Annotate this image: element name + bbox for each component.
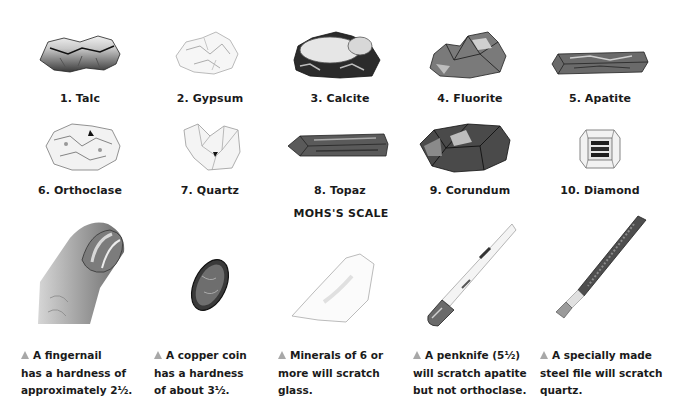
mineral-apatite: 5. Apatite [540, 20, 660, 80]
calcite-illustration [280, 20, 400, 80]
caption-line: quartz. [540, 382, 670, 400]
steel-file-illustration [548, 212, 648, 322]
caption-fingernail: A fingernail has a hardness of approxima… [21, 347, 151, 400]
caption-line: approximately 2½. [21, 382, 151, 400]
mineral-label: 2. Gypsum [150, 92, 270, 105]
mineral-diamond: 10. Diamond [540, 116, 660, 176]
topaz-illustration [280, 116, 400, 176]
mineral-label: 10. Diamond [540, 184, 660, 197]
mineral-talc: 1. Talc [20, 20, 140, 80]
caption-penknife: A penknife (5½) will scratch apatite but… [413, 347, 543, 400]
caption-line: steel file will scratch [540, 365, 670, 383]
mineral-label: 3. Calcite [280, 92, 400, 105]
caption-line: A copper coin [154, 347, 284, 365]
orthoclase-illustration [20, 116, 140, 176]
triangle-bullet-icon [278, 351, 286, 359]
mineral-label: 8. Topaz [280, 184, 400, 197]
caption-line: more will scratch [278, 365, 408, 383]
mineral-label: 1. Talc [20, 92, 140, 105]
quartz-illustration [150, 116, 270, 176]
mineral-label: 9. Corundum [410, 184, 530, 197]
caption-line: but not orthoclase. [413, 382, 543, 400]
caption-line: of about 3½. [154, 382, 284, 400]
triangle-bullet-icon [540, 351, 548, 359]
mineral-quartz: 7. Quartz [150, 116, 270, 176]
gypsum-illustration [150, 20, 270, 80]
caption-line: A specially made [540, 347, 670, 365]
mineral-label: 4. Fluorite [410, 92, 530, 105]
caption-line: Minerals of 6 or [278, 347, 408, 365]
caption-copper-coin: A copper coin has a hardness of about 3½… [154, 347, 284, 400]
triangle-bullet-icon [21, 351, 29, 359]
mineral-topaz: 8. Topaz [280, 116, 400, 176]
glass-illustration [288, 236, 388, 326]
mineral-fluorite: 4. Fluorite [410, 20, 530, 80]
mineral-gypsum: 2. Gypsum [150, 20, 270, 80]
caption-line: has a hardness [154, 365, 284, 383]
caption-steel-file: A specially made steel file will scratch… [540, 347, 670, 400]
mineral-orthoclase: 6. Orthoclase [20, 116, 140, 176]
caption-line: glass. [278, 382, 408, 400]
caption-line: will scratch apatite [413, 365, 543, 383]
talc-illustration [20, 20, 140, 80]
mineral-corundum: 9. Corundum [410, 116, 530, 176]
apatite-illustration [540, 20, 660, 80]
caption-line: has a hardness of [21, 365, 151, 383]
mineral-label: 7. Quartz [150, 184, 270, 197]
corundum-illustration [410, 116, 530, 176]
diamond-illustration [540, 116, 660, 176]
fingernail-illustration [30, 212, 140, 332]
mineral-label: 5. Apatite [540, 92, 660, 105]
triangle-bullet-icon [154, 351, 162, 359]
copper-coin-illustration [180, 252, 240, 318]
caption-line: A fingernail [21, 347, 151, 365]
mineral-calcite: 3. Calcite [280, 20, 400, 80]
triangle-bullet-icon [413, 351, 421, 359]
penknife-illustration [420, 218, 520, 328]
caption-glass: Minerals of 6 or more will scratch glass… [278, 347, 408, 400]
fluorite-illustration [410, 20, 530, 80]
caption-line: A penknife (5½) [413, 347, 543, 365]
mineral-label: 6. Orthoclase [20, 184, 140, 197]
